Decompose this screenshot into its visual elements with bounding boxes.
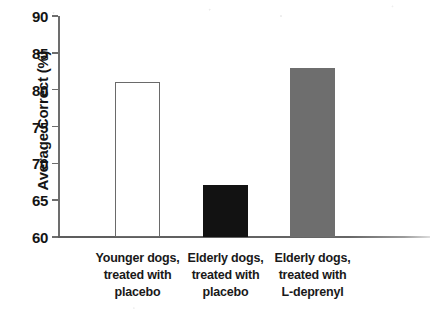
x-axis-category-label-line: L-deprenyl [258,284,368,301]
x-axis-category-label-line: treated with [258,267,368,284]
x-axis-category-label-line: Elderly dogs, [258,250,368,267]
x-axis-category-label: Elderly dogs,treated withL-deprenyl [258,250,368,301]
y-axis-tick [52,15,58,17]
y-axis-tick [52,52,58,54]
y-axis-tick-label: 70 [8,155,48,172]
y-axis-tick-label: 65 [8,192,48,209]
bar [290,68,335,237]
y-axis-tick [52,199,58,201]
y-axis-line [58,16,60,238]
bar-chart-figure: Average Correct (%) 60657075808590 Young… [0,0,446,321]
y-axis-tick-label: 90 [8,8,48,25]
y-axis-tick [52,236,58,238]
y-axis-tick [52,163,58,165]
bar [203,185,248,237]
y-axis-tick [52,89,58,91]
y-axis-tick-label: 75 [8,118,48,135]
y-axis-tick-label: 60 [8,229,48,246]
y-axis-tick-label: 80 [8,81,48,98]
bar [115,82,160,237]
y-axis-tick [52,126,58,128]
y-axis-tick-label: 85 [8,44,48,61]
